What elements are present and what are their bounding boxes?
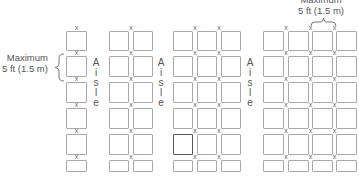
spacing-marker: x (215, 75, 223, 82)
spacing-marker: x (73, 24, 81, 31)
spacing-marker: x (191, 49, 199, 56)
storage-unit (197, 31, 217, 51)
storage-unit (312, 31, 333, 51)
spacing-marker: x (307, 101, 315, 108)
spacing-marker: x (73, 101, 81, 108)
storage-unit (173, 82, 193, 103)
storage-unit (221, 56, 241, 77)
storage-unit (109, 108, 129, 129)
storage-unit (336, 31, 357, 51)
spacing-marker: x (282, 127, 290, 134)
left-max-label-line1: Maximum (2, 52, 48, 63)
spacing-marker: x (191, 153, 199, 160)
spacing-marker: x (282, 49, 290, 56)
storage-unit (336, 108, 357, 129)
storage-unit (263, 108, 284, 129)
spacing-marker: x (73, 75, 81, 82)
storage-unit (288, 56, 309, 77)
spacing-marker: x (215, 24, 223, 31)
spacing-marker: x (307, 75, 315, 82)
storage-unit (173, 160, 193, 172)
aisle-label-1: Aisle (91, 58, 101, 108)
spacing-marker: x (282, 101, 290, 108)
storage-unit (173, 134, 193, 155)
storage-unit (336, 160, 357, 172)
spacing-marker: x (215, 101, 223, 108)
storage-unit (221, 134, 241, 155)
storage-unit (336, 56, 357, 77)
storage-unit (133, 31, 153, 51)
top-max-label: Maximum 5 ft (1.5 m) (286, 0, 356, 16)
spacing-marker: x (127, 127, 135, 134)
storage-unit (66, 134, 87, 155)
storage-unit (263, 160, 284, 172)
spacing-marker: x (215, 49, 223, 56)
storage-unit (66, 82, 87, 103)
storage-unit (66, 31, 87, 51)
spacing-marker: x (331, 101, 339, 108)
storage-unit (221, 108, 241, 129)
storage-unit (312, 160, 333, 172)
spacing-marker: x (73, 153, 81, 160)
storage-unit (336, 134, 357, 155)
storage-unit (221, 82, 241, 103)
storage-unit (109, 82, 129, 103)
spacing-marker: x (127, 24, 135, 31)
left-max-label: Maximum 5 ft (1.5 m) (2, 52, 48, 74)
aisle-label-3: Aisle (245, 58, 255, 108)
storage-unit (288, 108, 309, 129)
storage-unit (263, 31, 284, 51)
storage-unit (197, 56, 217, 77)
spacing-marker: x (215, 153, 223, 160)
storage-unit (221, 160, 241, 172)
storage-unit (263, 82, 284, 103)
spacing-marker: x (191, 24, 199, 31)
storage-unit (109, 160, 129, 172)
storage-unit (263, 56, 284, 77)
spacing-marker: x (331, 75, 339, 82)
storage-unit (133, 56, 153, 77)
spacing-marker: x (331, 127, 339, 134)
spacing-marker: x (307, 153, 315, 160)
spacing-marker: x (331, 153, 339, 160)
spacing-marker: x (73, 127, 81, 134)
spacing-marker: x (307, 127, 315, 134)
storage-unit (133, 160, 153, 172)
spacing-marker: x (282, 153, 290, 160)
left-brace-icon (55, 54, 65, 81)
spacing-marker: x (191, 127, 199, 134)
spacing-marker: x (307, 24, 315, 31)
storage-unit (133, 82, 153, 103)
storage-unit (288, 31, 309, 51)
storage-unit (312, 108, 333, 129)
storage-unit (336, 82, 357, 103)
left-max-label-line2: 5 ft (1.5 m) (2, 63, 48, 74)
spacing-marker: x (127, 101, 135, 108)
spacing-marker: x (282, 75, 290, 82)
storage-unit (133, 108, 153, 129)
spacing-marker: x (307, 49, 315, 56)
spacing-marker: x (73, 49, 81, 56)
storage-unit (197, 82, 217, 103)
storage-unit (288, 160, 309, 172)
spacing-marker: x (282, 24, 290, 31)
storage-unit (197, 108, 217, 129)
spacing-marker: x (127, 153, 135, 160)
storage-unit (288, 134, 309, 155)
spacing-marker: x (127, 49, 135, 56)
storage-unit (312, 82, 333, 103)
spacing-marker: x (127, 75, 135, 82)
storage-unit (109, 134, 129, 155)
storage-unit (312, 56, 333, 77)
storage-unit (66, 108, 87, 129)
storage-unit (197, 160, 217, 172)
spacing-marker: x (191, 101, 199, 108)
spacing-marker: x (215, 127, 223, 134)
storage-unit (133, 134, 153, 155)
spacing-marker: x (191, 75, 199, 82)
storage-unit (221, 31, 241, 51)
aisle-label-2: Aisle (156, 58, 166, 108)
storage-unit (109, 31, 129, 51)
storage-unit (263, 134, 284, 155)
storage-unit (109, 56, 129, 77)
